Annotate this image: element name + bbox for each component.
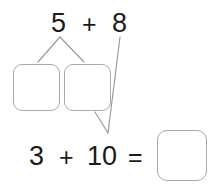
worksheet-canvas: 5 + 8 3 + 10 = — [0, 0, 220, 190]
bottom-equation-addend-a: 3 — [29, 143, 44, 170]
bottom-equation-equals-operator: = — [128, 145, 143, 170]
top-equation-addend-b: 8 — [112, 10, 127, 37]
connector-five-to-part-2-icon — [60, 37, 84, 62]
bottom-equation-plus-operator: + — [59, 145, 74, 170]
decomposition-box-part-2[interactable] — [64, 64, 111, 111]
connector-five-to-part-1-icon — [38, 37, 60, 62]
answer-box[interactable] — [157, 130, 207, 181]
bottom-equation-addend-b: 10 — [87, 143, 117, 170]
top-equation-addend-a: 5 — [51, 10, 66, 37]
connector-part-2-to-ten-icon — [95, 112, 108, 133]
top-equation-plus-operator: + — [82, 12, 97, 37]
decomposition-box-part-1[interactable] — [13, 64, 60, 111]
